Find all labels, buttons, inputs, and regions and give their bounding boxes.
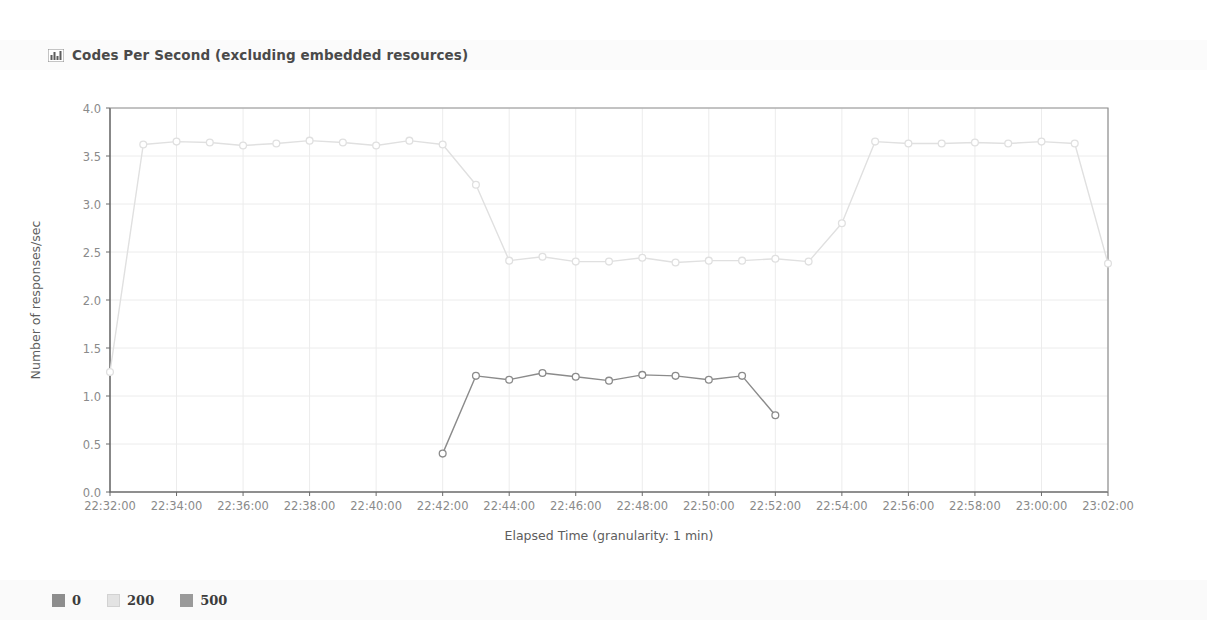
data-point-marker[interactable] bbox=[406, 137, 413, 144]
data-point-marker[interactable] bbox=[373, 142, 380, 149]
legend-item[interactable]: 200 bbox=[107, 593, 154, 608]
line-chart: 0.00.51.01.52.02.53.03.54.022:32:0022:34… bbox=[0, 82, 1207, 562]
x-tick-label: 22:42:00 bbox=[417, 499, 469, 513]
legend-item[interactable]: 500 bbox=[180, 593, 227, 608]
legend-swatch bbox=[107, 594, 120, 607]
y-tick-label: 0.0 bbox=[83, 486, 101, 500]
chart-area: 0.00.51.01.52.02.53.03.54.022:32:0022:34… bbox=[0, 82, 1207, 562]
x-tick-label: 22:44:00 bbox=[483, 499, 535, 513]
data-point-marker[interactable] bbox=[206, 139, 213, 146]
data-point-marker[interactable] bbox=[639, 371, 646, 378]
x-tick-label: 22:48:00 bbox=[616, 499, 668, 513]
y-tick-label: 2.0 bbox=[83, 294, 101, 308]
chart-panel: Codes Per Second (excluding embedded res… bbox=[0, 0, 1207, 644]
x-tick-label: 22:52:00 bbox=[750, 499, 802, 513]
data-point-marker[interactable] bbox=[1038, 138, 1045, 145]
x-tick-label: 22:36:00 bbox=[217, 499, 269, 513]
legend-item[interactable]: 0 bbox=[52, 593, 81, 608]
y-tick-label: 1.5 bbox=[83, 342, 101, 356]
y-axis-label: Number of responses/sec bbox=[28, 220, 43, 379]
series-line bbox=[443, 373, 776, 454]
page-title: Codes Per Second (excluding embedded res… bbox=[72, 47, 468, 63]
y-tick-label: 2.5 bbox=[83, 246, 101, 260]
panel-header: Codes Per Second (excluding embedded res… bbox=[0, 40, 1207, 70]
x-tick-label: 22:32:00 bbox=[84, 499, 136, 513]
data-point-marker[interactable] bbox=[805, 258, 812, 265]
data-point-marker[interactable] bbox=[739, 257, 746, 264]
data-point-marker[interactable] bbox=[872, 138, 879, 145]
data-point-marker[interactable] bbox=[240, 142, 247, 149]
data-point-marker[interactable] bbox=[606, 377, 613, 384]
data-point-marker[interactable] bbox=[672, 259, 679, 266]
data-point-marker[interactable] bbox=[705, 376, 712, 383]
data-point-marker[interactable] bbox=[506, 376, 513, 383]
data-point-marker[interactable] bbox=[772, 412, 779, 419]
data-point-marker[interactable] bbox=[572, 373, 579, 380]
y-tick-label: 4.0 bbox=[83, 102, 101, 116]
y-tick-label: 0.5 bbox=[83, 438, 101, 452]
data-point-marker[interactable] bbox=[1005, 140, 1012, 147]
chart-legend: 0200500 bbox=[0, 580, 1207, 620]
data-point-marker[interactable] bbox=[473, 181, 480, 188]
data-point-marker[interactable] bbox=[339, 139, 346, 146]
x-tick-label: 22:58:00 bbox=[949, 499, 1001, 513]
data-point-marker[interactable] bbox=[506, 257, 513, 264]
data-point-marker[interactable] bbox=[739, 372, 746, 379]
data-point-marker[interactable] bbox=[539, 253, 546, 260]
bar-chart-icon bbox=[48, 49, 64, 62]
data-point-marker[interactable] bbox=[672, 372, 679, 379]
y-tick-label: 1.0 bbox=[83, 390, 101, 404]
series-line bbox=[110, 141, 1108, 372]
legend-swatch bbox=[52, 594, 65, 607]
legend-label: 500 bbox=[200, 593, 227, 608]
data-point-marker[interactable] bbox=[439, 450, 446, 457]
x-tick-label: 22:40:00 bbox=[350, 499, 402, 513]
data-point-marker[interactable] bbox=[306, 137, 313, 144]
data-point-marker[interactable] bbox=[140, 141, 147, 148]
data-point-marker[interactable] bbox=[938, 140, 945, 147]
data-point-marker[interactable] bbox=[639, 254, 646, 261]
x-tick-label: 22:34:00 bbox=[151, 499, 203, 513]
y-tick-label: 3.0 bbox=[83, 198, 101, 212]
data-point-marker[interactable] bbox=[1071, 140, 1078, 147]
data-point-marker[interactable] bbox=[173, 138, 180, 145]
legend-label: 0 bbox=[72, 593, 81, 608]
data-point-marker[interactable] bbox=[439, 141, 446, 148]
x-tick-label: 22:56:00 bbox=[883, 499, 935, 513]
data-point-marker[interactable] bbox=[838, 220, 845, 227]
x-axis-label: Elapsed Time (granularity: 1 min) bbox=[505, 528, 714, 543]
legend-label: 200 bbox=[127, 593, 154, 608]
x-tick-label: 22:50:00 bbox=[683, 499, 735, 513]
data-point-marker[interactable] bbox=[539, 370, 546, 377]
x-tick-label: 23:00:00 bbox=[1016, 499, 1068, 513]
x-tick-label: 22:54:00 bbox=[816, 499, 868, 513]
data-point-marker[interactable] bbox=[705, 257, 712, 264]
legend-swatch bbox=[180, 594, 193, 607]
data-point-marker[interactable] bbox=[772, 255, 779, 262]
y-tick-label: 3.5 bbox=[83, 150, 101, 164]
data-point-marker[interactable] bbox=[905, 140, 912, 147]
x-tick-label: 23:02:00 bbox=[1082, 499, 1134, 513]
data-point-marker[interactable] bbox=[473, 372, 480, 379]
data-point-marker[interactable] bbox=[606, 258, 613, 265]
data-point-marker[interactable] bbox=[273, 140, 280, 147]
x-tick-label: 22:38:00 bbox=[284, 499, 336, 513]
x-tick-label: 22:46:00 bbox=[550, 499, 602, 513]
data-point-marker[interactable] bbox=[972, 139, 979, 146]
data-point-marker[interactable] bbox=[107, 369, 114, 376]
data-point-marker[interactable] bbox=[1105, 260, 1112, 267]
data-point-marker[interactable] bbox=[572, 258, 579, 265]
